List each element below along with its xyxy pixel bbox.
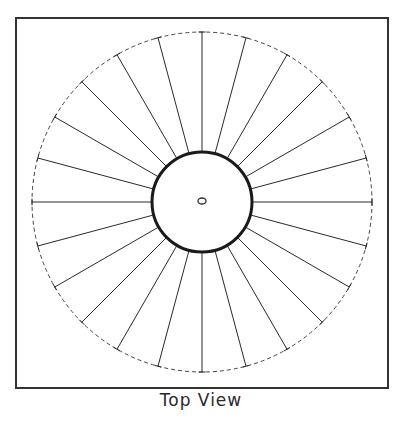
spoke-end-cap: [114, 53, 120, 57]
spoke: [55, 227, 159, 287]
spoke: [215, 250, 246, 366]
spoke: [250, 158, 366, 189]
spoke: [237, 237, 322, 322]
spoke: [38, 215, 154, 246]
spoke: [237, 82, 322, 167]
spoke-end-cap: [347, 114, 351, 120]
spoke: [38, 158, 154, 189]
spoke: [82, 82, 167, 167]
hub-circle: [152, 152, 252, 252]
spoke-end-cap: [347, 284, 351, 290]
spoke: [117, 55, 177, 159]
spoke-end-cap: [53, 284, 57, 290]
spoke: [245, 117, 349, 177]
spoke: [55, 117, 159, 177]
spoke-end-cap: [284, 53, 290, 57]
spoke: [245, 227, 349, 287]
spoke: [158, 38, 189, 154]
spoke-end-cap: [114, 347, 120, 351]
spoke: [158, 250, 189, 366]
spoke: [250, 215, 366, 246]
spoke: [227, 55, 287, 159]
diagram-caption: Top View: [0, 390, 402, 410]
spoke: [82, 237, 167, 322]
spoke: [117, 245, 177, 349]
spoke-end-cap: [284, 347, 290, 351]
spoke: [227, 245, 287, 349]
spoke: [215, 38, 246, 154]
spoke-end-cap: [53, 114, 57, 120]
top-view-diagram: [0, 0, 402, 424]
